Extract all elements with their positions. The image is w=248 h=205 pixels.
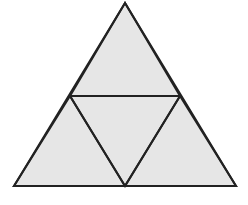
sierpinski-triangle-diagram: [0, 0, 248, 205]
outer-triangle: [14, 3, 236, 186]
